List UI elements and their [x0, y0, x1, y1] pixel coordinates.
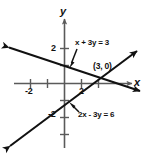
x-tick-label-negative-2: -2	[25, 87, 33, 96]
leader-line-equation-1	[69, 49, 77, 69]
line-2x-minus-3y-equals-6	[10, 51, 137, 146]
y-tick-label-negative-2: -2	[48, 110, 56, 119]
x-axis-label: x	[134, 77, 140, 88]
equation-label-line-1: x + 3y = 3	[75, 39, 109, 47]
graph-canvas	[0, 0, 147, 155]
y-axis-label: y	[60, 6, 66, 17]
y-tick-label-2: 2	[51, 44, 56, 53]
equation-label-line-2: 2x - 3y = 6	[78, 111, 114, 119]
x-tick-label-2: 2	[79, 87, 84, 96]
intersection-point-label: (3, 0)	[93, 62, 112, 71]
coordinate-plane-figure: y x -2 2 2 -2 x + 3y = 3 2x - 3y = 6 (3,…	[0, 0, 147, 155]
